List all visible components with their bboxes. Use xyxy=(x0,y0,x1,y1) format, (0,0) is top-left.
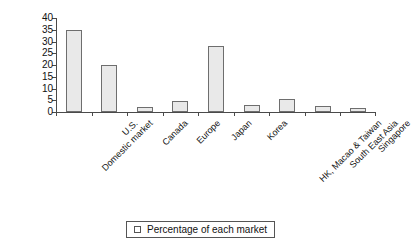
bar xyxy=(137,107,153,112)
bar xyxy=(66,30,82,112)
x-tick-mark xyxy=(375,112,376,116)
y-tick-label: 35 xyxy=(42,24,53,35)
bar xyxy=(172,101,188,112)
x-tick-mark xyxy=(234,112,235,116)
legend-swatch-icon xyxy=(134,226,141,233)
x-tick-mark xyxy=(340,112,341,116)
y-tick-label: 20 xyxy=(42,59,53,70)
bar xyxy=(244,105,260,112)
plot-area xyxy=(56,18,376,112)
bar xyxy=(208,46,224,112)
x-tick-mark xyxy=(56,112,57,116)
x-axis-line xyxy=(56,112,376,113)
legend: Percentage of each market xyxy=(126,221,275,238)
x-tick-mark xyxy=(127,112,128,116)
bar xyxy=(101,65,117,112)
x-category-label: Korea xyxy=(265,118,289,142)
bar xyxy=(315,106,331,112)
x-tick-mark xyxy=(163,112,164,116)
x-tick-mark xyxy=(305,112,306,116)
x-tick-mark xyxy=(269,112,270,116)
y-tick-label: 10 xyxy=(42,83,53,94)
bar xyxy=(350,108,366,112)
y-tick-label: 0 xyxy=(47,106,53,117)
legend-label: Percentage of each market xyxy=(147,224,267,235)
x-tick-mark xyxy=(92,112,93,116)
y-tick-label: 15 xyxy=(42,71,53,82)
x-tick-mark xyxy=(198,112,199,116)
y-tick-label: 5 xyxy=(47,94,53,105)
y-tick-label: 40 xyxy=(42,12,53,23)
x-category-label: Europe xyxy=(195,118,223,146)
y-tick-label: 30 xyxy=(42,36,53,47)
bars-layer xyxy=(56,18,376,112)
x-category-label: Japan xyxy=(229,118,253,142)
y-tick-label: 25 xyxy=(42,47,53,58)
x-category-label: Canada xyxy=(160,118,189,147)
bar xyxy=(279,99,295,112)
